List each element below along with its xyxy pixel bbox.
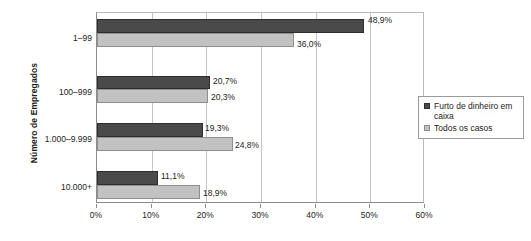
x-axis-tick-label: 40% xyxy=(295,210,335,220)
data-label-series2-cat2: 20,3% xyxy=(211,93,235,102)
bar-series2-cat2 xyxy=(97,89,208,103)
bar-series1-cat3 xyxy=(97,123,203,137)
data-label-series1-cat1: 48,9% xyxy=(368,16,392,25)
y-axis-tick-label: 1–99 xyxy=(4,33,92,43)
y-axis-tick-label: 1.000–9.999 xyxy=(4,134,92,144)
legend-swatch-icon xyxy=(424,125,430,131)
x-tick-30 xyxy=(260,204,261,208)
bar-series2-cat1 xyxy=(97,33,294,47)
y-axis-tick-labels: 1–99 100–999 1.000–9.999 10.000+ xyxy=(0,0,92,241)
x-axis-tick-label: 60% xyxy=(404,210,444,220)
bar-series1-cat2 xyxy=(97,76,210,89)
bar-series2-cat4 xyxy=(97,185,200,199)
x-axis-tick-label: 50% xyxy=(349,210,389,220)
x-tick-60 xyxy=(424,204,425,208)
x-tick-20 xyxy=(205,204,206,208)
y-axis-tick-label: 100–999 xyxy=(4,87,92,97)
x-tick-50 xyxy=(369,204,370,208)
data-label-series2-cat4: 18,9% xyxy=(203,189,227,198)
bar-series1-cat4 xyxy=(97,171,158,185)
x-tick-40 xyxy=(315,204,316,208)
gridline-50 xyxy=(370,13,371,202)
y-axis-tick-label: 10.000+ xyxy=(4,182,92,192)
bar-series2-cat3 xyxy=(97,137,233,151)
legend-swatch-icon xyxy=(424,103,430,109)
plot-area xyxy=(96,12,424,203)
bar-series1-cat1 xyxy=(97,19,364,33)
x-axis-tick-label: 10% xyxy=(131,210,171,220)
x-tick-0 xyxy=(96,204,97,208)
bar-chart: Número de Empregados 1–99 100–999 1.000–… xyxy=(0,0,531,241)
x-tick-10 xyxy=(151,204,152,208)
chart-legend: Furto de dinheiro em caixa Todos os caso… xyxy=(418,96,524,139)
data-label-series1-cat2: 20,7% xyxy=(213,77,237,86)
x-axis-tick-label: 30% xyxy=(240,210,280,220)
data-label-series1-cat4: 11,1% xyxy=(161,172,184,181)
data-label-series2-cat3: 24,8% xyxy=(235,141,259,150)
legend-item-furto-de-dinheiro-em-caixa: Furto de dinheiro em caixa xyxy=(424,101,519,121)
x-axis-tick-label: 0% xyxy=(76,210,116,220)
legend-item-label: Furto de dinheiro em caixa xyxy=(434,101,519,121)
legend-item-label: Todos os casos xyxy=(434,123,493,133)
data-label-series2-cat1: 36,0% xyxy=(297,40,321,49)
x-axis-tick-label: 20% xyxy=(185,210,225,220)
data-label-series1-cat3: 19,3% xyxy=(205,124,229,133)
legend-item-todos-os-casos: Todos os casos xyxy=(424,123,519,133)
